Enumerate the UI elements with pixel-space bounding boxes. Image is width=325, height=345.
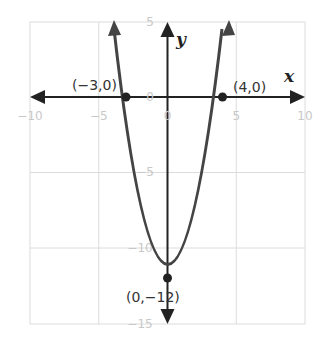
tick-y-5: 5 — [146, 15, 154, 29]
tick-y-neg10: −10 — [127, 241, 152, 255]
x-axis-right-arrow-icon — [290, 90, 305, 104]
tick-y-neg5: −5 — [136, 165, 154, 179]
tick-x-10: 10 — [297, 109, 312, 123]
point-4-0 — [218, 93, 227, 102]
label-point-0-neg12: (0,−12) — [126, 289, 180, 305]
tick-y-0: 0 — [146, 90, 154, 104]
y-axis-label: y — [175, 29, 187, 49]
y-axis-up-arrow-icon — [161, 22, 175, 37]
y-axis-down-arrow-icon — [161, 309, 175, 324]
tick-y-neg15: −15 — [127, 317, 152, 331]
tick-x-neg10: −10 — [17, 109, 42, 123]
tick-x-0: 0 — [164, 109, 172, 123]
tick-x-5: 5 — [232, 109, 240, 123]
label-point-neg3-0: (−3,0) — [72, 77, 117, 93]
tick-x-neg5: −5 — [90, 109, 108, 123]
x-axis-label: x — [283, 66, 295, 86]
parabola-chart: −10 −5 0 5 10 5 0 −5 −10 −15 (−3,0) (4,0… — [0, 0, 325, 345]
x-axis-left-arrow-icon — [30, 90, 45, 104]
point-neg3-0 — [122, 93, 131, 102]
label-point-4-0: (4,0) — [233, 79, 266, 95]
point-0-neg12 — [163, 274, 172, 283]
